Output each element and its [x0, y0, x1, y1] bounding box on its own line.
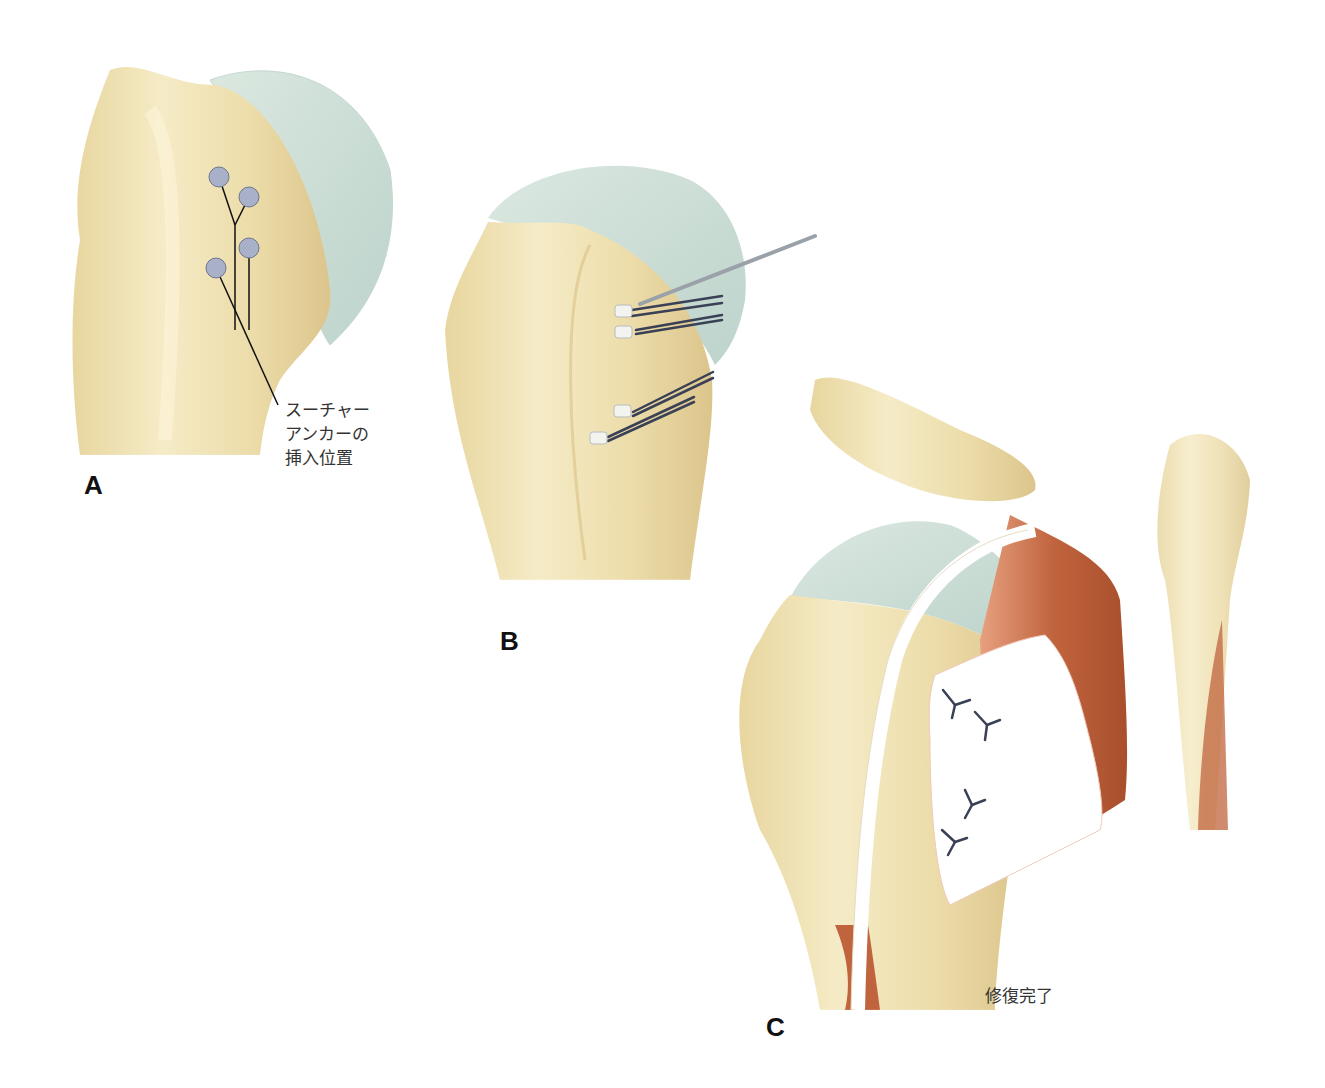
anchor-icon — [209, 167, 229, 187]
anchor-icon — [206, 258, 226, 278]
panel-a-annotation: スーチャー アンカーの 挿入位置 — [285, 398, 370, 470]
acromion — [810, 377, 1036, 501]
anchor-icon — [239, 187, 259, 207]
anchor-icon — [239, 238, 259, 258]
anchor-icon — [614, 405, 631, 417]
illustration-canvas — [0, 0, 1325, 1088]
panel-c-shoulder — [739, 377, 1250, 1015]
anchor-icon — [615, 305, 632, 317]
anchor-icon — [615, 326, 632, 338]
panel-b-humerus — [440, 166, 815, 585]
panel-label-c: C — [766, 1012, 785, 1043]
panel-c-annotation: 修復完了 — [985, 984, 1053, 1008]
panel-label-a: A — [84, 470, 103, 501]
panel-label-b: B — [500, 626, 519, 657]
anchor-icon — [590, 432, 607, 444]
